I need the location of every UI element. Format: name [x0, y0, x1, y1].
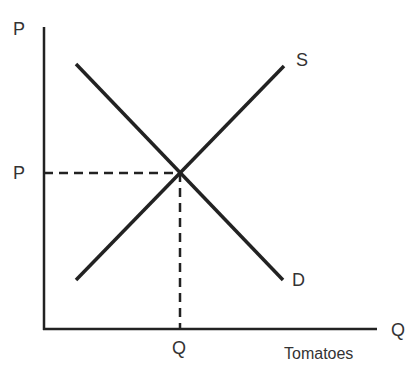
x-axis-caption: Tomatoes [284, 346, 353, 362]
y-axis-label: P [13, 20, 25, 38]
equilibrium-price-label: P [13, 164, 25, 182]
supply-demand-diagram [0, 0, 413, 381]
supply-label: S [296, 51, 308, 69]
demand-label: D [292, 271, 305, 289]
x-axis-label: Q [391, 321, 405, 339]
equilibrium-quantity-label: Q [172, 339, 186, 357]
